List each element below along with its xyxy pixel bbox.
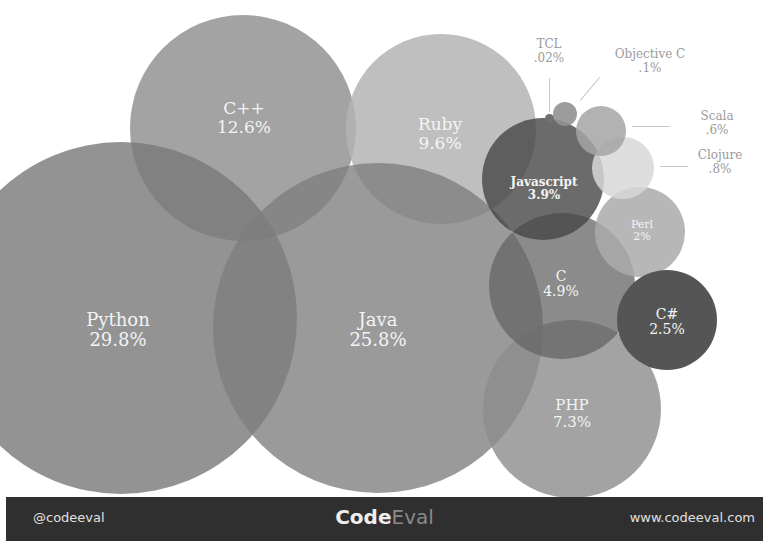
label-cpp: C++ 12.6% — [217, 99, 271, 136]
bubble-chart: C++ 12.6% Ruby 9.6% Python 29.8% Java 25… — [0, 0, 769, 500]
leader-line-scala — [632, 126, 670, 127]
label-python: Python 29.8% — [86, 310, 150, 350]
label-cpp-name: C++ — [217, 99, 271, 118]
label-ruby-name: Ruby — [418, 115, 462, 134]
label-php-name: PHP — [553, 397, 591, 414]
label-python-name: Python — [86, 310, 150, 330]
label-tcl: TCL .02% — [534, 38, 565, 66]
label-clojure-name: Clojure — [698, 149, 743, 163]
twitter-handle[interactable]: @codeeval — [33, 510, 105, 525]
brand-logo-code: Code — [335, 505, 391, 529]
label-objc: Objective C .1% — [615, 48, 686, 76]
label-cpp-pct: 12.6% — [217, 118, 271, 137]
label-perl-pct: 2% — [631, 231, 653, 243]
label-scala: Scala .6% — [700, 110, 733, 138]
label-ruby-pct: 9.6% — [418, 134, 462, 153]
label-clojure: Clojure .8% — [698, 149, 743, 177]
label-c: C 4.9% — [543, 269, 579, 300]
label-javascript: Javascript 3.9% — [510, 176, 577, 202]
label-clojure-pct: .8% — [698, 163, 743, 177]
label-javascript-pct: 3.9% — [510, 189, 577, 202]
label-csharp-pct: 2.5% — [649, 322, 685, 337]
label-csharp: C# 2.5% — [649, 307, 685, 338]
label-java-name: Java — [349, 310, 406, 330]
label-perl: Perl 2% — [631, 219, 653, 243]
leader-line-tcl — [549, 78, 550, 112]
label-objc-pct: .1% — [615, 62, 686, 76]
label-python-pct: 29.8% — [86, 330, 150, 350]
footer-bar: @codeeval CodeEval www.codeeval.com — [6, 497, 763, 541]
brand-logo-eval: Eval — [392, 505, 434, 529]
label-tcl-name: TCL — [534, 38, 565, 52]
label-ruby: Ruby 9.6% — [418, 115, 462, 152]
leader-line-objc — [580, 77, 600, 101]
label-c-name: C — [543, 269, 579, 284]
website-link[interactable]: www.codeeval.com — [630, 510, 755, 525]
bubble-scala — [576, 106, 626, 156]
label-objc-name: Objective C — [615, 48, 686, 62]
bubble-tcl — [545, 114, 554, 123]
label-c-pct: 4.9% — [543, 284, 579, 299]
label-java-pct: 25.8% — [349, 330, 406, 350]
label-php: PHP 7.3% — [553, 397, 591, 430]
label-scala-name: Scala — [700, 110, 733, 124]
label-php-pct: 7.3% — [553, 413, 591, 430]
label-java: Java 25.8% — [349, 310, 406, 350]
bubble-objc — [553, 102, 577, 126]
label-scala-pct: .6% — [700, 124, 733, 138]
label-csharp-name: C# — [649, 307, 685, 322]
leader-line-clojure — [660, 166, 688, 167]
brand-logo: CodeEval — [335, 505, 434, 529]
label-tcl-pct: .02% — [534, 52, 565, 66]
